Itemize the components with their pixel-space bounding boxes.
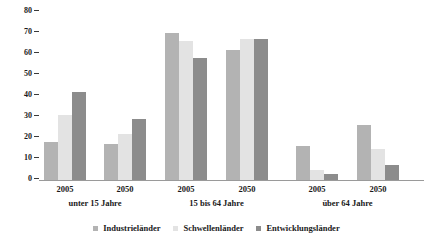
y-axis-tick: 40 <box>24 91 39 99</box>
y-axis-tick: 10 <box>24 154 39 162</box>
plot-area <box>39 8 424 180</box>
bar-group <box>165 8 207 180</box>
x-axis-year-label: 2005 <box>287 185 347 194</box>
y-axis-tick: 80 <box>24 7 39 15</box>
bar <box>132 119 146 180</box>
legend-swatch-icon <box>93 226 98 231</box>
bar-group <box>296 8 338 180</box>
bar <box>254 39 268 180</box>
y-axis-tick-label: 70 <box>24 28 32 36</box>
y-axis-tick-label: 0 <box>28 175 32 183</box>
bar <box>193 58 207 180</box>
x-axis-year-label: 2050 <box>95 185 155 194</box>
legend-item-label: Entwicklungsländer <box>266 224 339 233</box>
bar <box>357 125 371 180</box>
legend-item: Industrieländer <box>93 224 160 233</box>
y-axis-tick-label: 80 <box>24 7 32 15</box>
y-axis-tick: 0 <box>28 175 39 183</box>
bar-group <box>104 8 146 180</box>
x-axis-group-label: unter 15 Jahre <box>30 199 160 208</box>
y-axis-tick: 30 <box>24 112 39 120</box>
bar <box>104 144 118 180</box>
y-axis-tick-label: 60 <box>24 49 32 57</box>
bar <box>385 165 399 180</box>
x-axis-year-label: 2005 <box>35 185 95 194</box>
bar <box>296 146 310 180</box>
bar-group <box>357 8 399 180</box>
y-axis-tick-label: 40 <box>24 91 32 99</box>
legend-item: Entwicklungsländer <box>256 224 339 233</box>
y-axis-tick: 20 <box>24 133 39 141</box>
legend-swatch-icon <box>256 226 261 231</box>
x-axis-year-label: 2050 <box>217 185 277 194</box>
bar <box>165 33 179 180</box>
bar <box>179 41 193 180</box>
bar <box>226 50 240 180</box>
x-axis-year-label: 2005 <box>156 185 216 194</box>
bar <box>44 142 58 180</box>
bar <box>58 115 72 180</box>
bar <box>371 149 385 181</box>
x-axis-group-label: über 64 Jahre <box>283 199 413 208</box>
chart-legend: IndustrieländerSchwellenländerEntwicklun… <box>0 224 433 233</box>
x-axis-line <box>39 180 424 181</box>
y-axis-tick: 60 <box>24 49 39 57</box>
y-axis-tick-label: 20 <box>24 133 32 141</box>
y-axis-tick-label: 50 <box>24 70 32 78</box>
y-axis-tick: 70 <box>24 28 39 36</box>
y-axis-tick-label: 10 <box>24 154 32 162</box>
legend-item-label: Industrieländer <box>103 224 160 233</box>
bar <box>118 134 132 180</box>
bar-group <box>226 8 268 180</box>
bar <box>240 39 254 180</box>
bar <box>72 92 86 180</box>
y-axis-tick-label: 30 <box>24 112 32 120</box>
legend-item-label: Schwellenländer <box>183 224 243 233</box>
bar-chart: 80706050403020100 2005205020052050200520… <box>0 0 433 245</box>
legend-swatch-icon <box>173 226 178 231</box>
bar <box>310 170 324 181</box>
legend-item: Schwellenländer <box>173 224 243 233</box>
x-axis-year-label: 2050 <box>348 185 408 194</box>
bar <box>324 174 338 180</box>
y-axis-tick: 50 <box>24 70 39 78</box>
bar-group <box>44 8 86 180</box>
x-axis-group-label: 15 bis 64 Jahre <box>152 199 282 208</box>
